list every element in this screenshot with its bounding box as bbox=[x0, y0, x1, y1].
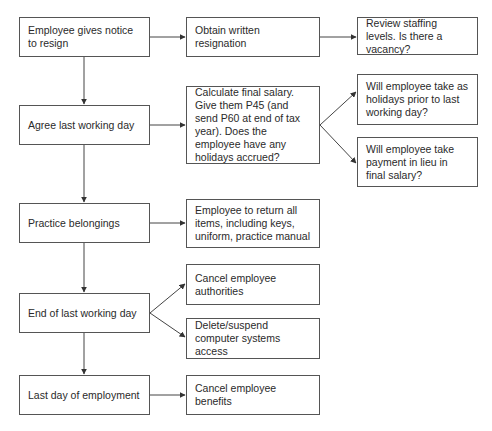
node-delete-suspend-access: Delete/suspend computer systems access bbox=[186, 318, 320, 359]
node-label: Cancel employee benefits bbox=[195, 382, 311, 408]
node-review-staffing-levels: Review staffing levels. Is there a vacan… bbox=[357, 17, 478, 55]
node-label: Agree last working day bbox=[28, 119, 134, 132]
node-label: Obtain written resignation bbox=[195, 24, 311, 50]
arrow-m2-r2 bbox=[320, 92, 356, 125]
node-label: Employee to return all items, including … bbox=[195, 204, 311, 243]
node-label: Cancel employee authorities bbox=[195, 272, 311, 298]
node-last-day-of-employment: Last day of employment bbox=[19, 375, 150, 415]
node-label: Employee gives notice to resign bbox=[28, 24, 141, 50]
node-label: Last day of employment bbox=[28, 389, 139, 402]
arrow-m2-r3 bbox=[320, 125, 356, 163]
arrow-n4-m4 bbox=[150, 284, 185, 313]
node-take-holidays: Will employee take as holidays prior to … bbox=[357, 74, 478, 125]
node-label: Will employee take as holidays prior to … bbox=[366, 80, 469, 119]
node-label: Calculate final salary. Give them P45 (a… bbox=[195, 86, 311, 164]
node-label: End of last working day bbox=[28, 307, 137, 320]
node-label: Practice belongings bbox=[28, 217, 120, 230]
node-practice-belongings: Practice belongings bbox=[19, 203, 150, 243]
node-end-of-last-working-day: End of last working day bbox=[19, 293, 150, 333]
node-employee-gives-notice: Employee gives notice to resign bbox=[19, 17, 150, 57]
node-obtain-written-resignation: Obtain written resignation bbox=[186, 17, 320, 57]
node-cancel-authorities: Cancel employee authorities bbox=[186, 264, 320, 305]
node-label: Will employee take payment in lieu in fi… bbox=[366, 143, 469, 182]
node-label: Review staffing levels. Is there a vacan… bbox=[366, 17, 469, 56]
node-cancel-benefits: Cancel employee benefits bbox=[186, 375, 320, 415]
node-payment-in-lieu: Will employee take payment in lieu in fi… bbox=[357, 137, 478, 187]
node-calculate-final-salary: Calculate final salary. Give them P45 (a… bbox=[186, 86, 320, 164]
arrow-n4-m5 bbox=[150, 313, 185, 337]
node-label: Delete/suspend computer systems access bbox=[195, 319, 311, 358]
node-agree-last-working-day: Agree last working day bbox=[19, 105, 150, 145]
node-return-all-items: Employee to return all items, including … bbox=[186, 199, 320, 248]
